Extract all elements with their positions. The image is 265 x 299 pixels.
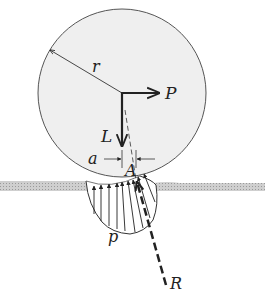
label-r: r: [92, 57, 101, 76]
label-R: R: [169, 274, 182, 293]
rolling-resistance-diagram: r P L a A p R: [0, 0, 265, 299]
label-A: A: [123, 161, 137, 180]
label-p: p: [108, 227, 118, 246]
label-L: L: [100, 126, 112, 146]
label-P: P: [164, 83, 177, 103]
label-a: a: [88, 149, 98, 168]
diagram-canvas: r P L a A p R: [0, 0, 265, 299]
